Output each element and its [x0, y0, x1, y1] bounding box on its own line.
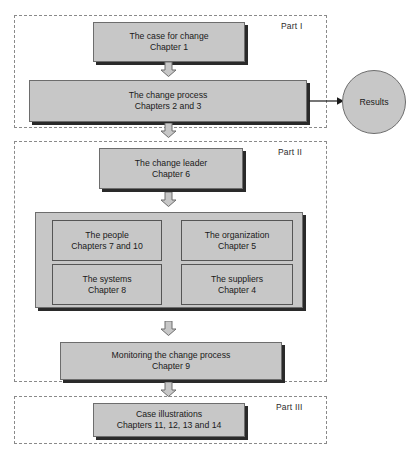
box-suppliers[interactable]: The suppliers Chapter 4	[181, 264, 293, 305]
box-case-illustrations-line2: Chapters 11, 12, 13 and 14	[117, 420, 222, 431]
box-case-for-change-line1: The case for change	[129, 31, 208, 42]
box-change-leader-line1: The change leader	[135, 158, 207, 169]
results-node[interactable]: Results	[342, 70, 406, 134]
arrow-group-to-monitoring-icon	[160, 321, 177, 336]
box-change-process-line2: Chapters 2 and 3	[135, 101, 202, 112]
box-case-illustrations-line1: Case illustrations	[136, 409, 202, 420]
box-systems-line1: The systems	[82, 274, 131, 285]
box-organization-line1: The organization	[205, 230, 270, 241]
box-organization-line2: Chapter 5	[218, 241, 256, 252]
arrow-leader-to-group-icon	[160, 192, 177, 207]
arrow-case-to-process-icon	[160, 62, 177, 77]
box-change-process-line1: The change process	[129, 90, 208, 101]
box-change-process[interactable]: The change process Chapters 2 and 3	[29, 80, 307, 122]
box-people[interactable]: The people Chapters 7 and 10	[52, 220, 162, 261]
box-group-container: The people Chapters 7 and 10 The organiz…	[35, 212, 303, 308]
box-change-leader-line2: Chapter 6	[152, 169, 190, 180]
box-people-line2: Chapters 7 and 10	[71, 241, 142, 252]
arrow-monitoring-to-cases-icon	[160, 382, 177, 397]
box-systems[interactable]: The systems Chapter 8	[52, 264, 162, 305]
box-suppliers-line2: Chapter 4	[218, 285, 256, 296]
arrow-process-to-leader-icon	[160, 123, 177, 138]
part-label-part-2: Part II	[278, 147, 302, 157]
arrow-process-to-results-icon	[309, 95, 345, 107]
box-people-line1: The people	[85, 230, 128, 241]
box-case-for-change[interactable]: The case for change Chapter 1	[93, 22, 245, 62]
box-change-leader[interactable]: The change leader Chapter 6	[99, 148, 243, 189]
box-organization[interactable]: The organization Chapter 5	[181, 220, 293, 261]
box-case-illustrations[interactable]: Case illustrations Chapters 11, 12, 13 a…	[93, 403, 245, 437]
results-label: Results	[360, 97, 389, 107]
box-monitoring-line2: Chapter 9	[152, 361, 190, 372]
box-monitoring[interactable]: Monitoring the change process Chapter 9	[60, 342, 282, 380]
box-case-for-change-line2: Chapter 1	[150, 42, 188, 53]
diagram-canvas: Part I The case for change Chapter 1 The…	[0, 0, 419, 459]
part-label-part-3: Part III	[276, 402, 303, 412]
box-systems-line2: Chapter 8	[88, 285, 126, 296]
box-suppliers-line1: The suppliers	[211, 274, 263, 285]
part-label-part-1: Part I	[281, 21, 303, 31]
box-monitoring-line1: Monitoring the change process	[112, 350, 231, 361]
